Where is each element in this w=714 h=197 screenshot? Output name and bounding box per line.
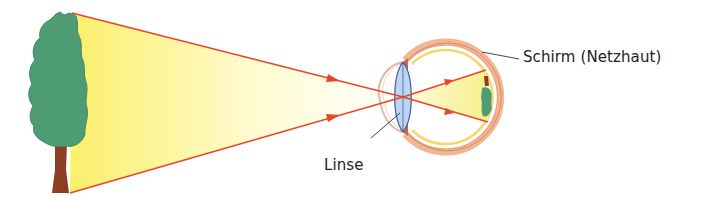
retina-label: Schirm (Netzhaut) xyxy=(523,48,661,66)
lens-label: Linse xyxy=(324,156,364,174)
ray-arrow-icon xyxy=(326,114,340,122)
ray-arrow-icon xyxy=(326,74,340,82)
tree-trunk xyxy=(52,142,69,193)
eye-optics-diagram: Schirm (Netzhaut) Linse xyxy=(0,0,714,197)
